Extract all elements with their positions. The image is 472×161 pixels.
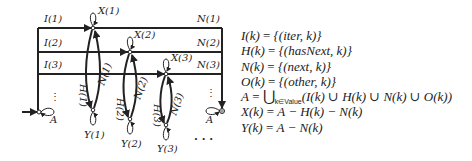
row-label-i3: I(3) (43, 59, 62, 70)
x3-self-loop (163, 59, 168, 72)
x2-node (128, 50, 132, 54)
left-vertical-ellipsis: ⋮ (50, 91, 60, 102)
x3-node (164, 72, 168, 76)
start-node-label: A (49, 114, 57, 125)
row-label-n2: N(2) (196, 37, 220, 48)
edge-label-n3: N(3) (167, 91, 186, 117)
x1-self-loop (90, 13, 95, 26)
row-label-i2: I(2) (43, 37, 62, 48)
x1-node (91, 26, 95, 30)
edge-n1 (94, 31, 100, 108)
y2-self-loop (127, 121, 132, 134)
edge-label-h3: H(3) (152, 103, 163, 127)
equation-a: A = ⋃k∈Value(I(k) ∪ H(k) ∪ N(k) ∪ O(k)) (241, 89, 471, 104)
set-definitions: I(k) = {(iter, k)} H(k) = {(hasNext, k)}… (241, 28, 471, 135)
y3-self-loop (163, 127, 168, 140)
y2-label: Y(2) (121, 138, 142, 149)
diagonal-ellipsis: . . . (194, 130, 213, 143)
row-label-n1: N(1) (196, 13, 220, 24)
x2-label: X(2) (133, 29, 155, 40)
edge-label-h2: H(2) (115, 97, 126, 121)
equation-x: X(k) = A − H(k) − N(k) (241, 104, 471, 119)
equation-o: O(k) = {(other, k)} (241, 74, 471, 89)
end-node (220, 109, 225, 114)
row-label-n3: N(3) (196, 59, 220, 70)
equation-h: H(k) = {(hasNext, k)} (241, 43, 471, 58)
x1-label: X(1) (97, 5, 119, 16)
y3-node (164, 123, 168, 127)
state-pair-2: X(2) H(2) N(2) Y(2) (115, 29, 155, 149)
state-pair-1: X(1) H(1) N(1) Y(1) (78, 5, 119, 140)
row-label-i1: I(1) (43, 13, 62, 24)
x2-self-loop (127, 37, 132, 50)
end-node-label: A (205, 114, 213, 125)
y1-label: Y(1) (84, 129, 105, 140)
equation-i: I(k) = {(iter, k)} (241, 28, 471, 43)
y2-node (128, 117, 132, 121)
automaton-diagram: A ⋮ ⋮ A I(1) I(2) I(3) N(1) N(2) N(3) X(… (0, 0, 236, 161)
state-pair-3: X(3) H(3) N(3) Y(3) (152, 52, 192, 154)
edge-label-h1: H(1) (78, 83, 89, 107)
right-vertical-ellipsis: ⋮ (206, 87, 216, 98)
x3-label: X(3) (170, 52, 192, 63)
union-symbol: ⋃ (263, 88, 275, 104)
y1-node (91, 108, 95, 112)
start-node (37, 110, 41, 114)
equation-y: Y(k) = A − N(k) (241, 120, 471, 135)
edge-label-n2: N(2) (131, 75, 150, 101)
y3-label: Y(3) (157, 143, 178, 154)
equation-n: N(k) = {(next, k)} (241, 59, 471, 74)
y1-self-loop (90, 112, 95, 125)
edge-n3 (167, 77, 172, 123)
